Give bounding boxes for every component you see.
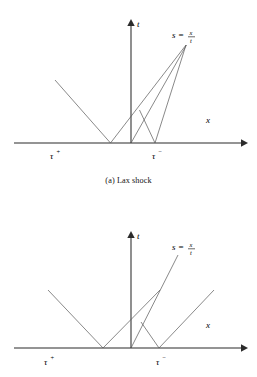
t-axis-arrow-icon <box>127 19 134 26</box>
tau-plus-symbol: τ <box>50 151 54 161</box>
x-axis-label: x <box>205 115 210 125</box>
tau-plus-superscript: + <box>51 354 55 361</box>
right-incoming-characteristic <box>155 45 186 143</box>
panel-lax-shock: t x τ + τ − s = x t <box>0 0 257 172</box>
right-outgoing-characteristic <box>159 290 214 348</box>
left-incoming-characteristic <box>48 290 103 348</box>
shock-ray-from-origin <box>131 45 187 143</box>
lax-shock-diagram: t x τ + τ − s = x t <box>0 0 257 172</box>
tau-minus-symbol: τ <box>152 151 156 161</box>
x-axis-arrow-icon <box>241 344 248 352</box>
shock-speed-label: s = x t <box>172 241 195 256</box>
tau-minus-superscript: − <box>163 354 167 361</box>
shock-speed-numerator: x <box>189 241 193 248</box>
right-incoming-characteristic <box>141 322 159 348</box>
tau-minus-superscript: − <box>159 148 163 155</box>
t-axis-arrow-icon <box>127 231 134 238</box>
shock-speed-lhs: s <box>172 30 176 40</box>
tau-plus-tick-label: τ + <box>50 148 61 161</box>
shock-speed-numerator: x <box>189 29 193 36</box>
left-incoming-characteristic <box>55 80 111 143</box>
x-axis-arrow-icon <box>241 139 248 147</box>
shock-speed-label: s = x t <box>172 29 195 44</box>
tau-plus-tick-label: τ + <box>44 354 55 367</box>
t-axis-label: t <box>137 231 140 241</box>
t-axis-label: t <box>137 19 140 29</box>
undercompressive-shock-diagram: t x τ + τ − s = x t <box>0 205 257 377</box>
shock-ray-from-origin <box>131 255 178 348</box>
shock-speed-lhs: s <box>172 242 176 252</box>
shock-speed-denominator: t <box>190 37 192 44</box>
x-axis-label: x <box>205 320 210 330</box>
shock-speed-equals: = <box>179 30 184 40</box>
tau-minus-symbol: τ <box>156 357 160 367</box>
tau-minus-tick-label: τ − <box>156 354 167 367</box>
shock-speed-equals: = <box>179 242 184 252</box>
shock-speed-denominator: t <box>190 249 192 256</box>
panel-undercompressive-shock: t x τ + τ − s = x t <box>0 205 257 377</box>
tau-plus-symbol: τ <box>44 357 48 367</box>
panel-a-caption: (a) Lax shock <box>0 176 257 185</box>
tau-minus-tick-label: τ − <box>152 148 163 161</box>
tau-plus-superscript: + <box>57 148 61 155</box>
figure-root: t x τ + τ − s = x t (a) Lax shock <box>0 0 257 377</box>
